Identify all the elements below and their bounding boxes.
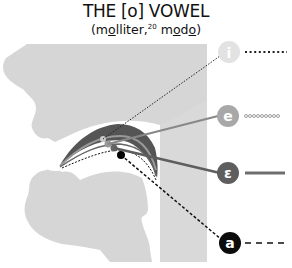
vowel-i-label: i bbox=[227, 45, 232, 61]
legend-small-circles-line bbox=[245, 115, 280, 118]
lip-gap bbox=[48, 163, 72, 171]
vowel-epsilon-label: ɛ bbox=[224, 165, 232, 181]
vowel-a-label: a bbox=[225, 235, 234, 251]
vocal-tract-diagram: i e ɛ a bbox=[0, 0, 292, 268]
vowel-e-label: e bbox=[223, 108, 233, 124]
head-profile-lower bbox=[25, 168, 152, 262]
